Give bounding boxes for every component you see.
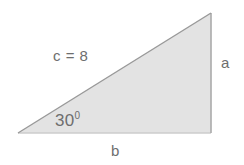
angle-value: 30 bbox=[55, 111, 75, 130]
side-b-label: b bbox=[111, 143, 119, 158]
triangle-canvas bbox=[0, 0, 244, 165]
side-a-label: a bbox=[221, 55, 229, 70]
angle-label: 300 bbox=[55, 111, 80, 129]
degree-symbol: 0 bbox=[75, 110, 81, 121]
hypotenuse-label: c = 8 bbox=[53, 48, 88, 63]
triangle-figure: c = 8 300 a b bbox=[0, 0, 244, 165]
